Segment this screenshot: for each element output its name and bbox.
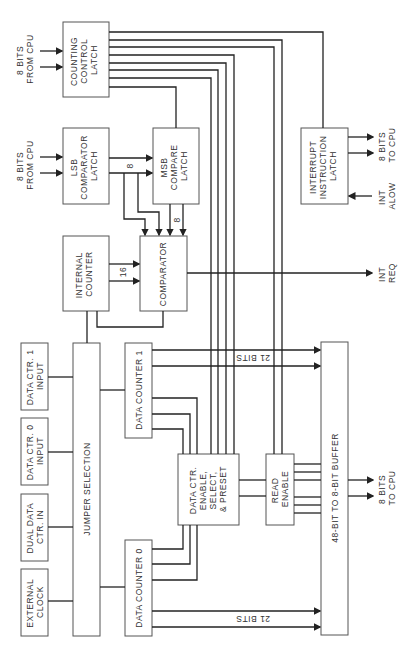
re-l1: READ bbox=[270, 478, 280, 504]
msb-l2: COMPARE bbox=[169, 145, 179, 191]
re-l2: ENABLE bbox=[280, 471, 290, 508]
block-diagram: COUNTING CONTROL LATCH LSB COMPARATOR LA… bbox=[0, 0, 410, 653]
cmp-l1: COMPARATOR bbox=[158, 242, 168, 307]
counting-control-latch-block: COUNTING CONTROL LATCH bbox=[63, 22, 109, 97]
int-req-l1: INT bbox=[377, 267, 387, 282]
data-counter-0-block: DATA COUNTER 0 bbox=[125, 540, 152, 636]
svg-text:READ ENABLE: READ ENABLE bbox=[270, 471, 290, 508]
ccl-l3: LATCH bbox=[89, 45, 99, 75]
dc0in-l2: INPUT bbox=[35, 437, 45, 465]
buffer-block: 48-BIT TO 8-BIT BUFFER bbox=[321, 342, 348, 635]
svg-text:DATA CTR. ENABLE,: DATA CTR. ENABLE, SELECT, & PRESET bbox=[188, 464, 228, 515]
int-req-l2: REQ bbox=[387, 263, 397, 283]
svg-text:8 BITS TO CPU: 8 BITS TO CPU bbox=[377, 128, 397, 163]
bus-label-21b: 21 BITS bbox=[236, 614, 270, 624]
cpu-out2-l1: 8 BITS bbox=[377, 475, 387, 504]
ccl-l2: CONTROL bbox=[79, 39, 89, 84]
iil-l2: INSTRUCTION bbox=[318, 136, 328, 200]
svg-text:INT REQ: INT REQ bbox=[377, 263, 397, 283]
bus-label-8a: 8 bbox=[125, 163, 135, 168]
data-counter-1-block: DATA COUNTER 1 bbox=[125, 343, 152, 438]
dce-l1: DATA CTR. bbox=[188, 467, 198, 515]
read-enable-block: READ ENABLE bbox=[266, 454, 294, 525]
buffer-label: 48-BIT TO 8-BIT BUFFER bbox=[330, 433, 340, 543]
dce-l4: & PRESET bbox=[218, 466, 228, 512]
svg-text:8 BITS FROM CPU: 8 BITS FROM CPU bbox=[15, 34, 35, 83]
data-ctr1-input-block: DATA CTR. 1 INPUT bbox=[21, 343, 48, 410]
js-label: JUMPER SELECTION bbox=[82, 442, 92, 536]
ddc-l1: DUAL DATA bbox=[25, 503, 35, 553]
external-clock-block: EXTERNAL CLOCK bbox=[21, 569, 48, 636]
ic-l2: COUNTER bbox=[84, 251, 94, 297]
cpu-out2-l2: TO CPU bbox=[387, 471, 397, 506]
ic-l1: INTERNAL bbox=[74, 252, 84, 298]
data-ctr0-input-block: DATA CTR. 0 INPUT bbox=[21, 418, 48, 485]
int-alow-l1: INT bbox=[377, 190, 387, 205]
cpu-in1-l1: 8 BITS bbox=[15, 46, 25, 75]
dc0-label: DATA COUNTER 0 bbox=[134, 548, 144, 627]
iil-l3: LATCH bbox=[328, 151, 338, 181]
int-alow-l2: ALOW bbox=[387, 182, 397, 209]
ec-l2: CLOCK bbox=[35, 586, 45, 618]
dce-l2: ENABLE, bbox=[198, 471, 208, 510]
cpu-in2-l1: 8 BITS bbox=[15, 152, 25, 181]
bus-label-21a: 21 BITS bbox=[236, 353, 270, 363]
cpu-in1-l2: FROM CPU bbox=[25, 34, 35, 83]
lsb-l2: COMPARATOR bbox=[79, 135, 89, 200]
dc1-label: DATA COUNTER 1 bbox=[134, 350, 144, 429]
svg-text:8 BITS TO CPU: 8 BITS TO CPU bbox=[377, 471, 397, 506]
lsb-l3: LATCH bbox=[89, 151, 99, 181]
msb-l3: LATCH bbox=[179, 151, 189, 181]
dc1in-l2: INPUT bbox=[35, 362, 45, 390]
bus-label-8b: 8 bbox=[172, 217, 182, 222]
jumper-selection-block: JUMPER SELECTION bbox=[73, 343, 100, 636]
data-ctr-enable-block: DATA CTR. ENABLE, SELECT, & PRESET bbox=[178, 454, 239, 525]
msb-l1: MSB bbox=[159, 157, 169, 177]
ccl-l1: COUNTING bbox=[69, 37, 79, 86]
lsb-l1: LSB bbox=[69, 159, 79, 177]
dual-data-ctr-in-block: DUAL DATA CTR. IN bbox=[21, 494, 48, 561]
svg-text:COMPARATOR: COMPARATOR bbox=[158, 242, 168, 307]
interrupt-instruction-latch-block: INTERRUPT INSTRUCTION LATCH bbox=[301, 128, 348, 204]
bus-label-16: 16 bbox=[118, 267, 128, 277]
comparator-block: COMPARATOR bbox=[140, 236, 187, 311]
iil-l1: INTERRUPT bbox=[308, 141, 318, 194]
dc0in-l1: DATA CTR. 0 bbox=[25, 425, 35, 481]
internal-counter-block: INTERNAL COUNTER bbox=[63, 236, 109, 311]
svg-text:INT ALOW: INT ALOW bbox=[377, 182, 397, 209]
cpu-in2-l2: FROM CPU bbox=[25, 140, 35, 189]
ddc-l2: CTR. IN bbox=[35, 510, 45, 544]
dce-l3: SELECT, bbox=[208, 471, 218, 509]
cpu-out1-l1: 8 BITS bbox=[377, 132, 387, 161]
svg-text:8 BITS FROM CPU: 8 BITS FROM CPU bbox=[15, 140, 35, 189]
ec-l1: EXTERNAL bbox=[25, 579, 35, 628]
msb-compare-latch-block: MSB COMPARE LATCH bbox=[153, 128, 199, 204]
svg-text:INTERNAL COUNTER: INTERNAL COUNTER bbox=[74, 250, 94, 299]
lsb-comparator-latch-block: LSB COMPARATOR LATCH bbox=[63, 128, 109, 204]
cpu-out1-l2: TO CPU bbox=[387, 128, 397, 163]
dc1in-l1: DATA CTR. 1 bbox=[25, 350, 35, 406]
